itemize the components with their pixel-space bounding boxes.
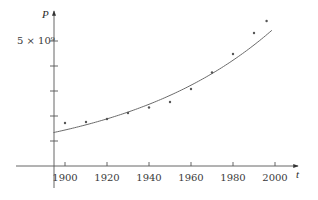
- data-point: [232, 53, 234, 55]
- data-point: [169, 101, 171, 103]
- x-tick-label: 1980: [220, 172, 245, 183]
- data-point: [85, 121, 87, 123]
- data-point: [148, 106, 150, 108]
- x-tick-label: 1960: [178, 172, 203, 183]
- population-chart: 190019201940196019802000 P t 5 × 10⁹: [0, 0, 318, 200]
- data-point: [64, 122, 66, 124]
- data-point: [190, 88, 192, 90]
- x-tick-label: 1920: [94, 172, 119, 183]
- y-axis-label: P: [41, 8, 49, 20]
- y-tick-label-5e9: 5 × 10⁹: [17, 35, 55, 46]
- x-axis-ticks: 190019201940196019802000: [52, 162, 287, 183]
- data-point: [127, 112, 129, 114]
- data-point: [106, 118, 108, 120]
- data-point: [211, 71, 213, 73]
- data-points: [64, 20, 268, 124]
- exponential-model-curve: [53, 30, 271, 132]
- x-axis-label: t: [296, 168, 300, 180]
- x-tick-label: 1940: [136, 172, 161, 183]
- x-tick-label: 2000: [262, 172, 287, 183]
- x-tick-label: 1900: [52, 172, 77, 183]
- data-point: [253, 32, 255, 34]
- data-point: [265, 20, 267, 22]
